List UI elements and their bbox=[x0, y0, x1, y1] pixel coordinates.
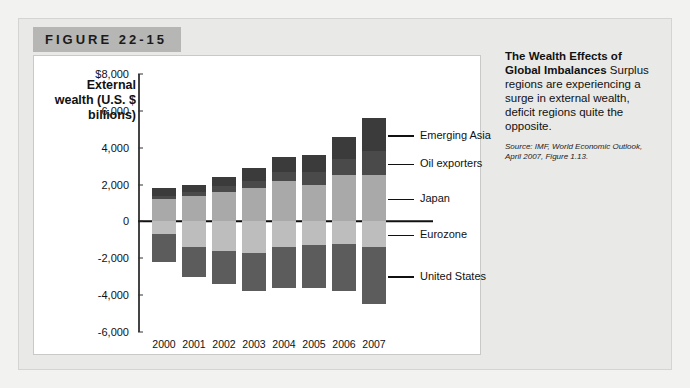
bar-segment bbox=[212, 251, 236, 284]
bar-column bbox=[152, 74, 176, 332]
bar-segment bbox=[302, 185, 326, 222]
bar-column bbox=[332, 74, 356, 332]
y-tick-mark bbox=[138, 110, 143, 111]
bar-segment bbox=[152, 234, 176, 262]
callout-leader-line bbox=[388, 276, 414, 278]
bar-segment bbox=[302, 172, 326, 185]
y-tick-mark bbox=[138, 147, 143, 148]
y-tick-mark bbox=[138, 258, 143, 259]
x-tick-label: 2007 bbox=[357, 338, 391, 350]
bar-segment bbox=[212, 192, 236, 221]
x-tick-label: 2001 bbox=[177, 338, 211, 350]
y-tick-mark bbox=[138, 332, 143, 333]
bar-segment bbox=[242, 168, 266, 181]
bar-segment bbox=[332, 175, 356, 221]
bar-segment bbox=[152, 221, 176, 234]
plot-area: $8,0006,0004,0002,0000-2,000-4,000-6,000… bbox=[138, 74, 408, 332]
y-tick-label: -4,000 bbox=[98, 289, 138, 301]
callout-label: Oil exporters bbox=[420, 157, 482, 169]
x-tick-label: 2002 bbox=[207, 338, 241, 350]
bar-column bbox=[272, 74, 296, 332]
bar-segment bbox=[182, 192, 206, 196]
bar-segment bbox=[242, 181, 266, 188]
bar-segment bbox=[212, 186, 236, 192]
bar-segment bbox=[362, 151, 386, 175]
x-tick-label: 2000 bbox=[147, 338, 181, 350]
bar-column bbox=[182, 74, 206, 332]
y-tick-label: 2,000 bbox=[101, 179, 138, 191]
y-tick-mark bbox=[138, 74, 143, 75]
bar-segment bbox=[272, 157, 296, 172]
bar-segment bbox=[152, 199, 176, 221]
series-callout: Eurozone bbox=[388, 228, 467, 240]
caption-block: The Wealth Effects of Global Imbalances … bbox=[505, 49, 655, 162]
bar-segment bbox=[152, 188, 176, 195]
figure-number-tab: FIGURE 22-15 bbox=[33, 27, 181, 52]
y-tick-label: $8,000 bbox=[95, 68, 138, 80]
callout-label: United States bbox=[420, 270, 486, 282]
bar-column bbox=[362, 74, 386, 332]
bar-segment bbox=[212, 221, 236, 250]
bar-column bbox=[242, 74, 266, 332]
callout-label: Japan bbox=[420, 192, 450, 204]
callout-label: Eurozone bbox=[420, 228, 467, 240]
bar-segment bbox=[332, 137, 356, 159]
y-axis-line bbox=[138, 74, 140, 332]
series-callout: Japan bbox=[388, 192, 450, 204]
x-tick-label: 2006 bbox=[327, 338, 361, 350]
chart-panel: External wealth (U.S. $ billions) $8,000… bbox=[33, 55, 481, 355]
y-tick-label: -2,000 bbox=[98, 252, 138, 264]
bar-segment bbox=[302, 245, 326, 287]
bar-segment bbox=[212, 177, 236, 186]
figure-container: FIGURE 22-15 External wealth (U.S. $ bil… bbox=[18, 18, 672, 370]
bar-column bbox=[212, 74, 236, 332]
caption-headline: The Wealth Effects of Global Imbalances … bbox=[505, 49, 655, 133]
bar-segment bbox=[332, 221, 356, 243]
y-tick-mark bbox=[138, 295, 143, 296]
bar-segment bbox=[302, 221, 326, 245]
bar-segment bbox=[182, 247, 206, 276]
bar-segment bbox=[332, 244, 356, 292]
series-callout: Emerging Asia bbox=[388, 129, 491, 141]
bar-segment bbox=[362, 247, 386, 304]
caption-headline-text: The Wealth Effects of Global Imbalances bbox=[505, 50, 622, 76]
bar-segment bbox=[362, 221, 386, 247]
x-tick-label: 2004 bbox=[267, 338, 301, 350]
y-tick-label: 4,000 bbox=[101, 142, 138, 154]
series-callout: Oil exporters bbox=[388, 157, 482, 169]
y-tick-mark bbox=[138, 184, 143, 185]
bar-segment bbox=[152, 196, 176, 200]
bar-segment bbox=[242, 188, 266, 221]
callout-leader-line bbox=[388, 235, 414, 237]
bar-column bbox=[302, 74, 326, 332]
bar-segment bbox=[242, 221, 266, 252]
y-tick-label: -6,000 bbox=[98, 326, 138, 338]
y-tick-label: 6,000 bbox=[101, 105, 138, 117]
bar-segment bbox=[182, 185, 206, 192]
bar-segment bbox=[182, 221, 206, 247]
y-tick-label: 0 bbox=[123, 215, 138, 227]
bar-segment bbox=[272, 221, 296, 247]
series-callout: United States bbox=[388, 270, 486, 282]
callout-leader-line bbox=[388, 199, 414, 201]
bar-segment bbox=[302, 155, 326, 172]
x-tick-label: 2005 bbox=[297, 338, 331, 350]
bar-segment bbox=[272, 247, 296, 288]
bar-segment bbox=[242, 253, 266, 292]
y-tick-mark bbox=[138, 221, 143, 222]
bar-segment bbox=[272, 181, 296, 222]
bar-segment bbox=[272, 172, 296, 181]
bar-segment bbox=[362, 175, 386, 221]
x-tick-label: 2003 bbox=[237, 338, 271, 350]
caption-source-text: Source: IMF, World Economic Outlook, Apr… bbox=[505, 142, 655, 162]
bar-segment bbox=[332, 159, 356, 176]
callout-label: Emerging Asia bbox=[420, 129, 491, 141]
callout-leader-line bbox=[388, 164, 414, 166]
bar-segment bbox=[362, 118, 386, 151]
callout-leader-line bbox=[388, 135, 414, 137]
bar-segment bbox=[182, 196, 206, 222]
